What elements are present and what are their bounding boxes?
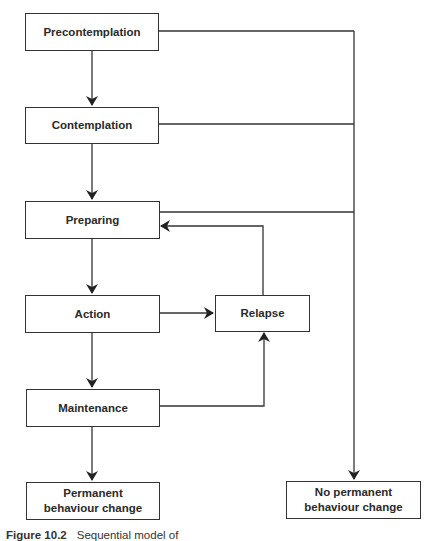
figure-number: Figure 10.2 xyxy=(6,529,67,541)
outcome-label-line1: Permanent xyxy=(63,486,122,501)
figure-caption: Figure 10.2Sequential model of xyxy=(6,529,178,541)
stage-label: Preparing xyxy=(66,213,120,228)
stage-label: Action xyxy=(75,307,111,322)
stage-label: Contemplation xyxy=(52,118,133,133)
stage-label: Relapse xyxy=(240,306,284,321)
stage-action: Action xyxy=(25,295,160,333)
stage-label: Precontemplation xyxy=(43,25,140,40)
stage-preparing: Preparing xyxy=(25,201,160,239)
outcome-no-permanent-change: No permanent behaviour change xyxy=(286,481,421,519)
outcome-label-line1: No permanent xyxy=(315,485,392,500)
caption-text: Sequential model of xyxy=(77,529,179,541)
stage-precontemplation: Precontemplation xyxy=(25,13,159,51)
stage-contemplation: Contemplation xyxy=(25,107,159,144)
outcome-label-line2: behaviour change xyxy=(44,501,142,516)
stage-maintenance: Maintenance xyxy=(26,389,160,427)
stage-label: Maintenance xyxy=(58,401,128,416)
stage-relapse: Relapse xyxy=(215,295,310,332)
outcome-permanent-change: Permanent behaviour change xyxy=(26,482,160,520)
outcome-label-line2: behaviour change xyxy=(304,500,402,515)
